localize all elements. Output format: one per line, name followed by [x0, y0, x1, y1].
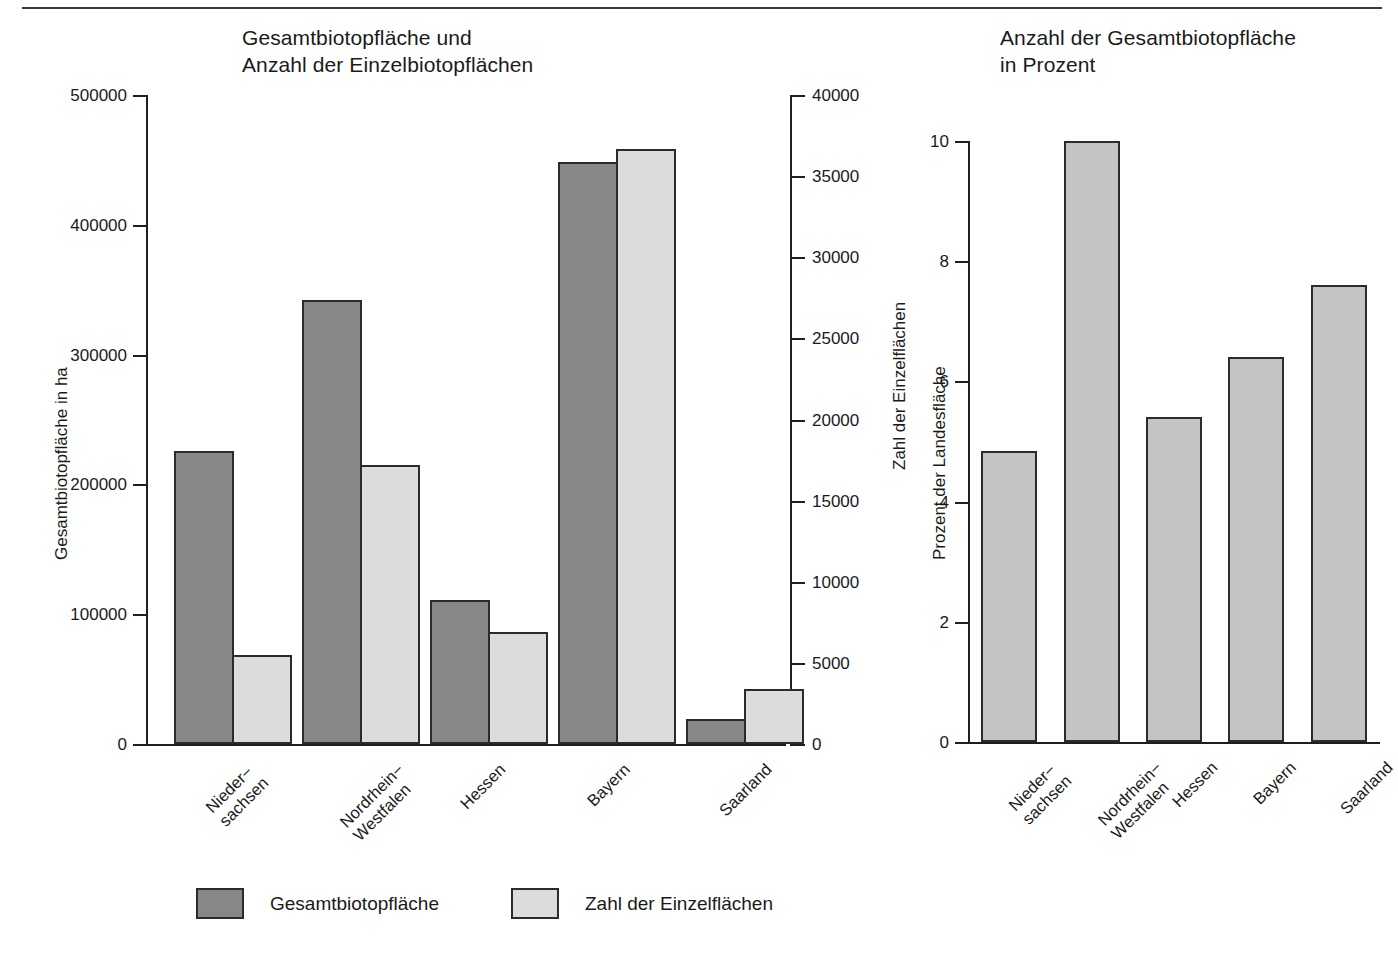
y-axis-tick-label: 2	[940, 614, 949, 631]
x-axis-category-label: Nieder− sachsen	[1005, 758, 1075, 828]
legend-item-label: Gesamtbiotopfläche	[270, 893, 439, 915]
y-axis-tick-label: 8	[940, 253, 949, 270]
legend-item-gesamtbiotopflaeche: Gesamtbiotopfläche	[196, 888, 439, 919]
legend-item-label: Zahl der Einzelflächen	[585, 893, 773, 915]
y-axis-title: Prozent der Landesfläche	[930, 366, 950, 560]
bar	[1228, 357, 1284, 742]
legend-swatch-icon	[511, 888, 559, 919]
bar	[981, 451, 1037, 742]
x-axis-category-label: Saarland	[1336, 758, 1396, 818]
bar	[1064, 141, 1120, 742]
y-axis-tick-label: 10	[930, 133, 949, 150]
bar	[1146, 417, 1202, 742]
y-axis-tick	[955, 381, 970, 383]
legend-item-zahl-der-einzelflaechen: Zahl der Einzelflächen	[511, 888, 773, 919]
y-axis-tick	[955, 742, 970, 744]
y-axis-tick	[955, 261, 970, 263]
x-axis-category-label: Bayern	[1249, 758, 1299, 808]
chart-legend: Gesamtbiotopfläche Zahl der Einzelfläche…	[196, 888, 845, 919]
y-axis-tick	[955, 502, 970, 504]
y-axis-line	[968, 141, 970, 744]
y-axis-tick	[955, 141, 970, 143]
bar	[1311, 285, 1367, 742]
chart-right: 0246810Prozent der LandesflächeNieder− s…	[0, 0, 1398, 963]
y-axis-tick-label: 0	[940, 734, 949, 751]
legend-swatch-icon	[196, 888, 244, 919]
y-axis-tick	[955, 622, 970, 624]
x-axis-category-label: Nordrhein− Westfalen	[1094, 758, 1179, 843]
x-axis-line	[968, 742, 1380, 744]
